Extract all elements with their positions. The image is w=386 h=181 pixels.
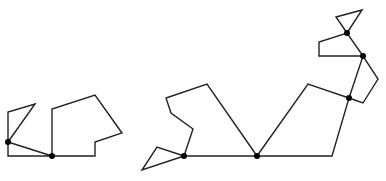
joint-dot — [344, 30, 350, 36]
joint-dot — [346, 95, 352, 101]
small-figure — [5, 95, 122, 159]
joint-dot — [181, 153, 187, 159]
polygon-edge — [8, 104, 35, 142]
figures-group — [5, 10, 378, 170]
tangram-chain-diagram — [0, 0, 386, 181]
polygon-edge — [349, 56, 378, 103]
large-figure — [142, 10, 378, 170]
joint-dot — [254, 153, 260, 159]
joint-dot — [5, 139, 11, 145]
polygon-edge — [166, 84, 257, 156]
polygon-edge — [52, 95, 122, 156]
polygon-edge — [257, 84, 349, 156]
joint-dot — [49, 153, 55, 159]
polygon-edge — [8, 142, 52, 156]
polygon-edge — [336, 10, 362, 33]
joint-dot — [360, 53, 366, 59]
polygon-edge — [319, 33, 363, 56]
polygon-edge — [142, 147, 184, 170]
